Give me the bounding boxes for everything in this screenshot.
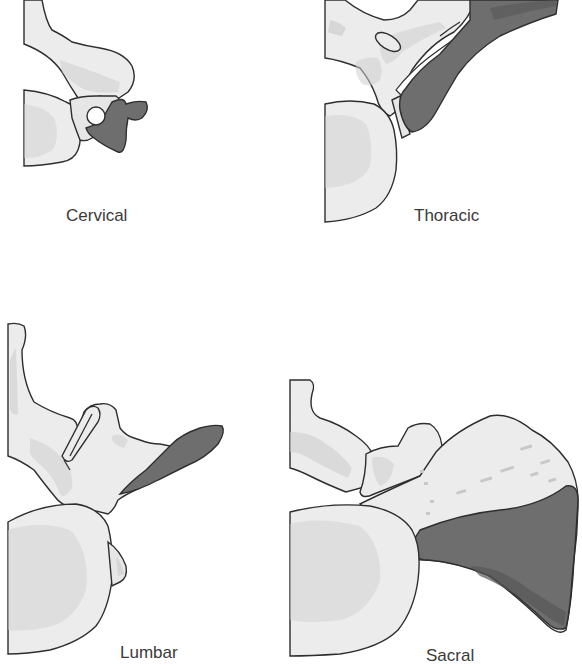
panel-label-thoracic: Thoracic (414, 206, 479, 226)
panel-label-sacral: Sacral (426, 646, 474, 666)
vertebrae-illustration (0, 0, 582, 669)
lumbar-vertebra-illustration (8, 323, 223, 654)
panel-label-lumbar: Lumbar (120, 643, 178, 663)
thoracic-vertebra-illustration (325, 0, 558, 222)
cervical-transverse-foramen (87, 107, 105, 125)
cervical-vertebra-illustration (24, 0, 147, 166)
panel-label-cervical: Cervical (66, 206, 127, 226)
sacral-vertebra-illustration (290, 380, 578, 656)
